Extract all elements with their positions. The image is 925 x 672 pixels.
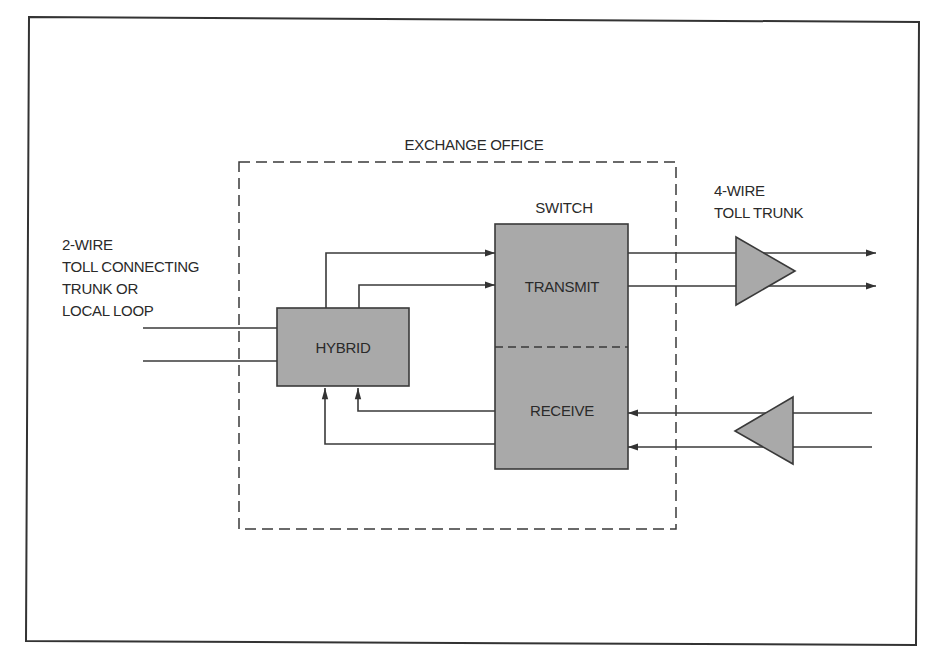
- four-wire-label: 4-WIRE TOLL TRUNK: [714, 182, 804, 221]
- receive-label: RECEIVE: [530, 402, 594, 419]
- two-wire-line-3: TRUNK OR: [62, 280, 138, 297]
- hybrid-to-transmit-1: [326, 253, 495, 308]
- hybrid-to-transmit-2: [359, 285, 495, 308]
- two-wire-line-4: LOCAL LOOP: [62, 302, 154, 319]
- receive-amplifier-icon: [735, 397, 793, 464]
- four-wire-line-2: TOLL TRUNK: [714, 204, 804, 221]
- receive-to-hybrid-1: [325, 388, 495, 444]
- exchange-office-label: EXCHANGE OFFICE: [405, 136, 544, 153]
- transmit-label: TRANSMIT: [525, 278, 599, 295]
- transmit-amplifier-icon: [736, 237, 795, 305]
- two-wire-label: 2-WIRE TOLL CONNECTING TRUNK OR LOCAL LO…: [62, 236, 199, 319]
- outer-frame: [26, 17, 919, 645]
- two-wire-line-1: 2-WIRE: [62, 236, 113, 253]
- hybrid-block: HYBRID: [277, 308, 409, 386]
- receive-to-hybrid-2: [358, 388, 495, 411]
- two-wire-line-2: TOLL CONNECTING: [62, 258, 199, 275]
- hybrid-label: HYBRID: [316, 339, 371, 356]
- switch-block: TRANSMIT RECEIVE: [495, 224, 628, 469]
- exchange-office-diagram: EXCHANGE OFFICE SWITCH TRANSMIT RECEIVE …: [0, 0, 925, 672]
- four-wire-line-1: 4-WIRE: [714, 182, 765, 199]
- switch-label: SWITCH: [535, 199, 592, 216]
